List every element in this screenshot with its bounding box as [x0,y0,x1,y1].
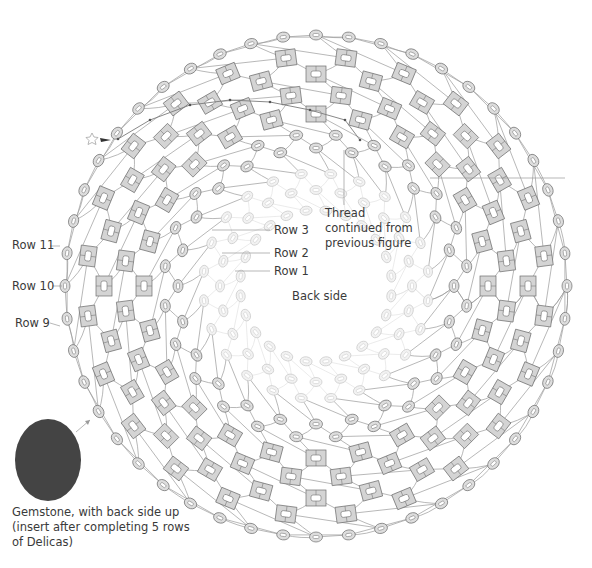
seed-bead [289,129,303,141]
delica-bead [453,423,478,448]
delica-bead [425,152,450,177]
delica-bead [217,125,242,149]
seed-bead [342,529,356,541]
seed-bead [239,398,255,413]
faint-bead [261,196,276,210]
delica-bead [482,200,504,225]
seed-bead [168,336,182,352]
delica-bead [79,245,97,267]
delica-bead [510,219,531,242]
faint-bead [217,254,229,268]
delica-bead [377,97,402,119]
seed-bead [342,31,356,43]
needle-icon [100,138,111,142]
delica-bead [453,123,478,148]
delica-bead [488,379,512,404]
delica-bead [116,300,134,322]
delica-bead [510,329,531,352]
faint-bead [239,308,252,323]
seed-bead [310,419,323,429]
seed-bead [329,431,343,443]
seed-bead [552,213,565,228]
delica-bead [121,413,146,439]
seed-bead [210,180,226,196]
delica-bead [497,300,515,322]
faint-bead [219,347,233,362]
seed-bead [429,185,445,201]
delica-bead [349,110,372,131]
label-row-9: Row 9 [15,316,50,331]
faint-bead [386,289,396,302]
seed-bead [404,47,420,61]
seed-bead [443,243,456,258]
seed-bead [377,159,393,174]
faint-bead [226,327,240,342]
faint-bead [295,393,308,403]
seed-bead [276,529,290,541]
faint-bead [403,254,415,268]
faint-bead [284,187,298,199]
faint-bead [324,169,337,179]
faint-bead [352,384,367,397]
seed-bead [210,375,226,391]
delica-bead [275,505,297,523]
delica-bead [96,276,112,296]
seed-bead [215,157,231,173]
seed-bead [212,47,228,61]
delica-bead [275,49,297,67]
faint-bead [310,378,322,387]
faint-bead [199,265,209,278]
delica-bead [186,426,212,451]
faint-bead [219,210,233,225]
seed-bead [61,246,73,260]
seed-bead [187,370,203,386]
seed-bead [243,37,258,50]
seed-bead [373,522,388,535]
seed-bead [366,419,382,433]
label-row-2: Row 2 [274,246,309,261]
faint-bead [398,347,412,362]
seed-bead [404,511,420,525]
delica-bead [155,359,179,384]
seed-bead [273,146,288,159]
delica-bead [306,490,326,506]
faint-bead [334,187,348,199]
seed-bead [168,220,182,236]
faint-bead [284,373,298,385]
seed-bead [449,280,459,293]
seed-bead [273,413,288,426]
seed-bead [405,375,421,391]
seed-bead [239,159,255,174]
seed-bead [182,61,198,76]
delica-bead [456,390,481,416]
seed-bead [428,347,443,363]
delica-bead [359,480,382,501]
delica-bead [335,49,357,67]
faint-bead [334,373,348,385]
faint-bead [217,304,229,318]
delica-bead [197,458,222,482]
delica-bead [443,456,469,481]
delica-bead [121,133,146,159]
delica-bead [182,395,207,420]
faint-bead [295,169,308,179]
faint-bead [369,325,383,340]
seed-bead [443,314,456,329]
seed-bead [289,431,303,443]
delica-bead [535,245,553,267]
seed-bead [212,511,228,525]
delica-bead [488,167,512,192]
faint-bead [300,356,313,366]
delica-bead [409,458,434,482]
seed-bead [344,413,359,426]
delica-bead [482,347,504,372]
delica-bead [453,359,477,384]
seed-bead [559,246,571,260]
delica-bead [349,442,372,463]
delica-bead [249,71,272,92]
faint-bead [423,265,433,278]
delica-bead [306,450,326,466]
delica-bead [151,156,176,182]
delica-bead [453,187,477,212]
faint-bead [248,232,262,247]
